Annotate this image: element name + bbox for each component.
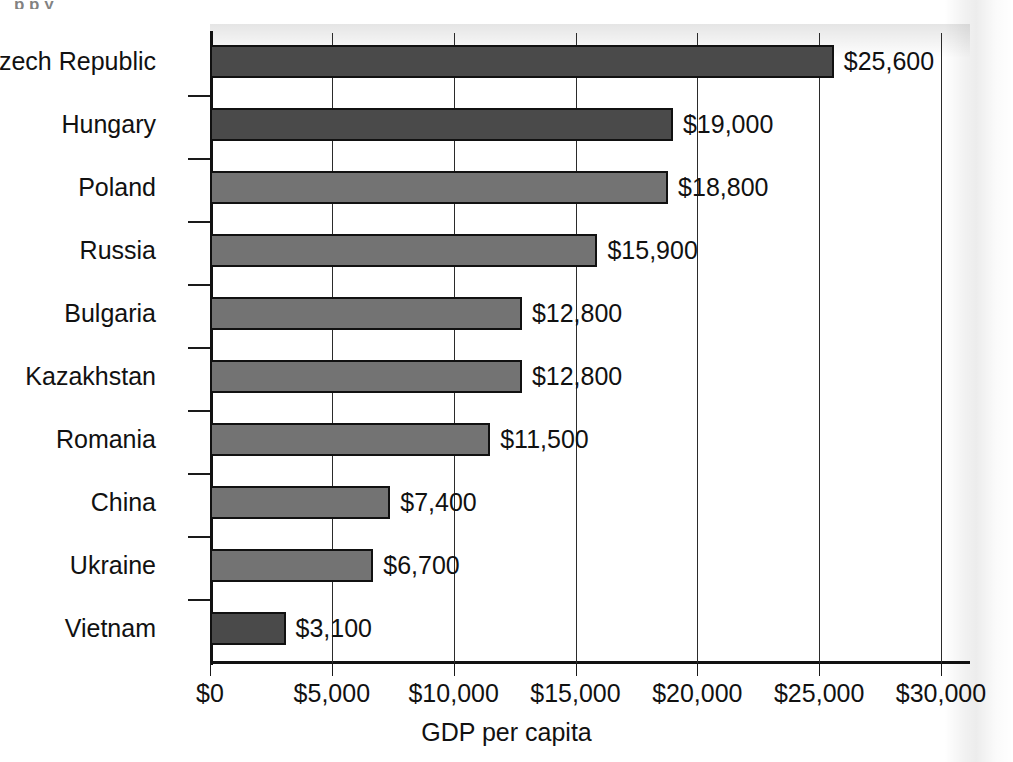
bar-row: $6,700: [210, 549, 941, 582]
bar: [210, 486, 390, 519]
category-label: Romania: [0, 423, 156, 456]
bar: [210, 108, 673, 141]
bar-chart: p p y Czech Republic$25,600Hungary$19,00…: [0, 0, 1013, 762]
bar: [210, 171, 668, 204]
bar-value-label: $18,800: [678, 170, 768, 205]
bar-value-label: $12,800: [532, 359, 622, 394]
y-tick: [188, 284, 210, 286]
bar: [210, 234, 597, 267]
bar-row: $12,800: [210, 297, 941, 330]
x-tick: [941, 663, 942, 676]
bar: [210, 612, 286, 645]
y-tick: [188, 410, 210, 412]
bar-row: $12,800: [210, 360, 941, 393]
bar-value-label: $15,900: [607, 233, 697, 268]
x-tick-label: $15,000: [530, 678, 620, 708]
x-tick: [210, 663, 211, 676]
bar-value-label: $7,400: [400, 485, 476, 520]
bar-row: $18,800: [210, 171, 941, 204]
x-tick: [819, 663, 820, 676]
x-tick-label: $25,000: [774, 678, 864, 708]
bar-value-label: $25,600: [844, 44, 934, 79]
x-axis-label: GDP per capita: [0, 718, 1013, 747]
x-tick-label: $0: [196, 678, 224, 708]
x-tick: [697, 663, 698, 676]
bar-value-label: $19,000: [683, 107, 773, 142]
bar: [210, 360, 522, 393]
bar-row: $11,500: [210, 423, 941, 456]
category-label: Ukraine: [0, 549, 156, 582]
category-label: Bulgaria: [0, 297, 156, 330]
x-tick-label: $5,000: [294, 678, 370, 708]
category-label: Hungary: [0, 108, 156, 141]
bar: [210, 423, 490, 456]
bar-row: $25,600: [210, 45, 941, 78]
gridline: [941, 33, 942, 663]
y-tick: [188, 599, 210, 601]
y-tick: [188, 536, 210, 538]
x-tick-label: $30,000: [896, 678, 986, 708]
category-label: Kazakhstan: [0, 360, 156, 393]
x-tick: [576, 663, 577, 676]
x-tick: [332, 663, 333, 676]
bar-value-label: $6,700: [383, 548, 459, 583]
y-tick: [188, 221, 210, 223]
x-tick-label: $20,000: [652, 678, 742, 708]
bar: [210, 45, 834, 78]
y-tick: [188, 158, 210, 160]
category-label: Russia: [0, 234, 156, 267]
category-label: Czech Republic: [0, 45, 156, 78]
bar-row: $15,900: [210, 234, 941, 267]
bar-value-label: $3,100: [296, 611, 372, 646]
bar-value-label: $11,500: [500, 422, 589, 457]
bar-row: $3,100: [210, 612, 941, 645]
category-label: Poland: [0, 171, 156, 204]
bar-value-label: $12,800: [532, 296, 622, 331]
bar-row: $7,400: [210, 486, 941, 519]
bar-row: $19,000: [210, 108, 941, 141]
y-tick: [188, 347, 210, 349]
category-label: China: [0, 486, 156, 519]
plot-area: Czech Republic$25,600Hungary$19,000Polan…: [210, 33, 941, 663]
bar: [210, 297, 522, 330]
bar: [210, 549, 373, 582]
cropped-title-fragment: p p y: [14, 0, 434, 9]
x-tick-label: $10,000: [408, 678, 498, 708]
y-tick: [188, 95, 210, 97]
y-tick: [188, 473, 210, 475]
category-label: Vietnam: [0, 612, 156, 645]
x-tick: [454, 663, 455, 676]
